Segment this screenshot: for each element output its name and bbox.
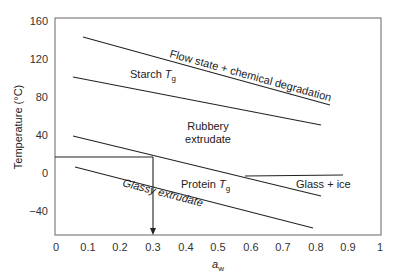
x-tick: 0 [53, 241, 59, 253]
x-tick: 0.6 [243, 241, 258, 253]
glass-ice-label: Glass + ice [296, 178, 351, 190]
x-tick: 0.5 [210, 241, 225, 253]
flow-state-label: Flow state + chemical degradation [168, 47, 332, 103]
y-axis-ticks: 160 120 80 40 0 −40 [29, 15, 48, 217]
y-tick: 40 [36, 129, 48, 141]
y-tick: 120 [30, 53, 48, 65]
x-tick: 0.3 [145, 241, 160, 253]
extrudate-label: extrudate [185, 133, 231, 145]
x-axis-label: aw [212, 258, 224, 273]
x-tick: 0.1 [80, 241, 95, 253]
x-tick: 0.9 [340, 241, 355, 253]
x-tick: 0.2 [112, 241, 127, 253]
chart: 160 120 80 40 0 −40 0 0.1 0.2 0.3 0.4 0.… [0, 0, 402, 279]
x-tick: 0.4 [178, 241, 193, 253]
x-axis-ticks: 0 0.1 0.2 0.3 0.4 0.5 0.6 0.7 0.8 0.9 1 [53, 241, 383, 253]
y-tick: 80 [36, 91, 48, 103]
y-tick: −40 [29, 205, 48, 217]
x-tick: 0.7 [275, 241, 290, 253]
starch-tg-label: Starch Tg [130, 68, 176, 83]
y-tick: 160 [30, 15, 48, 27]
x-tick: 1 [377, 241, 383, 253]
glass-ice-line [245, 175, 343, 176]
y-axis-label: Temperature (°C) [12, 85, 24, 169]
y-tick: 0 [42, 167, 48, 179]
protein-tg-label: Protein Tg [181, 178, 230, 193]
arrow-head-icon [150, 228, 156, 235]
flow-state-line [83, 37, 330, 105]
x-tick: 0.8 [308, 241, 323, 253]
rubbery-label: Rubbery [187, 120, 229, 132]
